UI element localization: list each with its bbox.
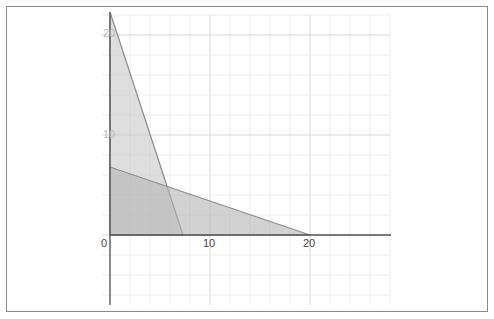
- y-tick-20: 20: [103, 27, 115, 39]
- origin-label: 0: [101, 237, 107, 249]
- x-tick-20: 20: [303, 237, 315, 249]
- x-tick-10: 10: [203, 237, 215, 249]
- y-tick-10: 10: [103, 128, 115, 140]
- lp-region-chart: 0 10 20 10 20: [0, 0, 494, 319]
